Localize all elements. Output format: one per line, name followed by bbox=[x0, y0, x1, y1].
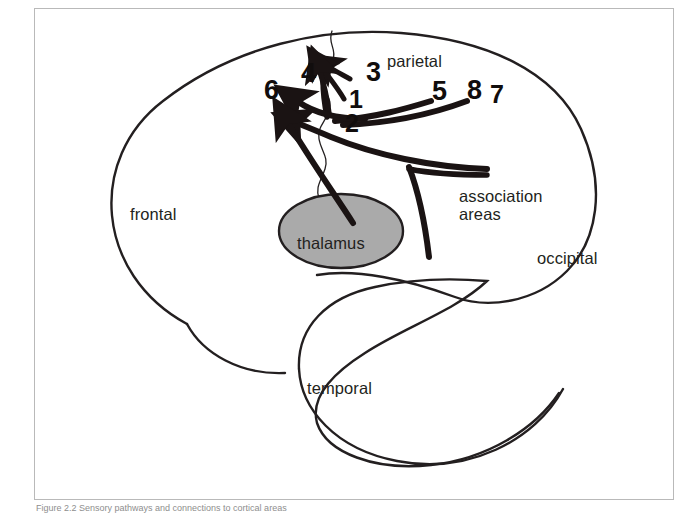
pathway-number-5: 5 bbox=[432, 76, 447, 107]
pathway-number-2: 2 bbox=[345, 109, 359, 138]
callout-association-areas-line1: association bbox=[459, 187, 543, 206]
region-label-frontal: frontal bbox=[130, 205, 177, 224]
pathway-number-8: 8 bbox=[467, 75, 482, 106]
frontal-inferior-edge bbox=[187, 324, 285, 373]
region-label-thalamus: thalamus bbox=[297, 234, 365, 253]
association-descending-branch bbox=[409, 167, 429, 257]
region-label-parietal: parietal bbox=[387, 52, 442, 71]
temporal-lobe-outline bbox=[299, 279, 559, 466]
pathway-number-6: 6 bbox=[264, 75, 279, 106]
pathway-number-7: 7 bbox=[490, 80, 504, 109]
region-label-temporal: temporal bbox=[307, 379, 372, 398]
pathway-number-4: 4 bbox=[301, 58, 316, 89]
pathway-number-3: 3 bbox=[366, 57, 381, 88]
figure-page: frontal parietal occipital temporal thal… bbox=[0, 0, 682, 513]
callout-association-areas-line2: areas bbox=[459, 205, 501, 224]
cerebrum-outline bbox=[111, 32, 596, 324]
figure-frame: frontal parietal occipital temporal thal… bbox=[34, 8, 674, 500]
figure-caption: Figure 2.2 Sensory pathways and connecti… bbox=[36, 503, 287, 513]
region-label-occipital: occipital bbox=[537, 249, 598, 268]
pathway-arrow-3 bbox=[329, 67, 350, 79]
